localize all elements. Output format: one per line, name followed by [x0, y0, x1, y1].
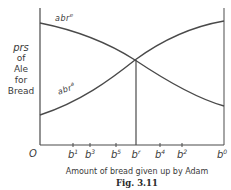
tick-b4: b4 — [155, 148, 165, 160]
curve-abr-e — [40, 23, 224, 106]
y-label-for: for — [0, 75, 42, 86]
x-axis-label: Amount of bread given up by Adam — [62, 167, 212, 176]
origin-label: O — [29, 148, 37, 159]
y-label-prs: prs — [0, 42, 42, 53]
curve-abr-a — [40, 21, 224, 115]
tick-br: br — [132, 148, 141, 160]
figure-caption: Fig. 3.11 — [62, 178, 212, 188]
tick-b5: b5 — [111, 148, 121, 160]
tick-b1: b1 — [68, 148, 78, 160]
tick-b2: b2 — [177, 148, 187, 160]
y-label-ale: Ale — [0, 64, 42, 75]
y-label-bread: Bread — [0, 86, 42, 97]
figure-3-11: prs of Ale for Bread abre abra O b1 b3 b… — [0, 0, 231, 190]
label-abr-e: abre — [55, 12, 74, 23]
y-label-of: of — [0, 53, 42, 64]
tick-b3: b3 — [85, 148, 95, 160]
tick-b0: b0 — [217, 148, 227, 160]
y-axis-label: prs of Ale for Bread — [0, 42, 42, 97]
